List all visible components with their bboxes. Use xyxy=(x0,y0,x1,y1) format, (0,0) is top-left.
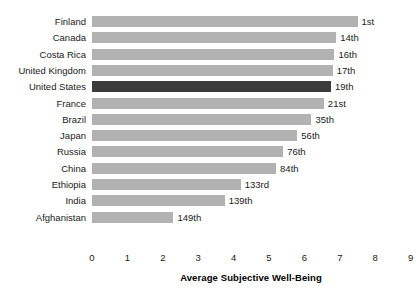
x-axis-title: Average Subjective Well-Being xyxy=(92,272,410,283)
x-tick-5: 5 xyxy=(261,252,277,264)
bar-row: Japan56th xyxy=(0,130,416,146)
rank-label-china: 84th xyxy=(280,163,299,174)
bar-row: Russia76th xyxy=(0,146,416,162)
category-label-ethiopia: Ethiopia xyxy=(0,179,86,190)
category-label-finland: Finland xyxy=(0,16,86,27)
x-tick-9: 9 xyxy=(403,252,416,264)
bar-row: Costa Rica16th xyxy=(0,49,416,65)
bar-finland xyxy=(92,16,358,27)
bar-brazil xyxy=(92,114,311,125)
x-tick-1: 1 xyxy=(119,252,135,264)
category-label-united-kingdom: United Kingdom xyxy=(0,65,86,76)
x-tick-7: 7 xyxy=(332,252,348,264)
bar-row: Afghanistan149th xyxy=(0,212,416,228)
x-tick-2: 2 xyxy=(155,252,171,264)
category-label-afghanistan: Afghanistan xyxy=(0,212,86,223)
rank-label-canada: 14th xyxy=(340,32,359,43)
x-tick-3: 3 xyxy=(190,252,206,264)
rank-label-japan: 56th xyxy=(301,130,320,141)
bar-japan xyxy=(92,130,297,141)
bar-row: United Kingdom17th xyxy=(0,65,416,81)
category-label-india: India xyxy=(0,195,86,206)
bar-india xyxy=(92,195,225,206)
rank-label-costa-rica: 16th xyxy=(338,49,357,60)
bar-row: China84th xyxy=(0,163,416,179)
rank-label-france: 21st xyxy=(328,98,346,109)
rank-label-finland: 1st xyxy=(362,16,375,27)
category-label-russia: Russia xyxy=(0,146,86,157)
bar-row: India139th xyxy=(0,195,416,211)
bar-afghanistan xyxy=(92,212,173,223)
well-being-bar-chart: Finland1stCanada14thCosta Rica16thUnited… xyxy=(0,0,416,302)
rank-label-india: 139th xyxy=(229,195,253,206)
bar-united-kingdom xyxy=(92,65,333,76)
bar-row: Finland1st xyxy=(0,16,416,32)
category-label-japan: Japan xyxy=(0,130,86,141)
bar-costa-rica xyxy=(92,49,334,60)
bar-row: Ethiopia133rd xyxy=(0,179,416,195)
category-label-china: China xyxy=(0,163,86,174)
x-tick-8: 8 xyxy=(367,252,383,264)
bar-canada xyxy=(92,32,336,43)
bar-united-states xyxy=(92,81,331,92)
category-label-brazil: Brazil xyxy=(0,114,86,125)
category-label-costa-rica: Costa Rica xyxy=(0,49,86,60)
x-tick-0: 0 xyxy=(84,252,100,264)
category-label-united-states: United States xyxy=(0,81,86,92)
rank-label-ethiopia: 133rd xyxy=(245,179,269,190)
bar-ethiopia xyxy=(92,179,241,190)
bar-row: Canada14th xyxy=(0,32,416,48)
rank-label-united-states: 19th xyxy=(335,81,354,92)
x-axis: 0123456789 xyxy=(0,252,416,266)
bar-russia xyxy=(92,146,283,157)
bar-row: United States19th xyxy=(0,81,416,97)
category-label-france: France xyxy=(0,98,86,109)
x-tick-4: 4 xyxy=(226,252,242,264)
bar-china xyxy=(92,163,276,174)
rank-label-united-kingdom: 17th xyxy=(337,65,356,76)
rank-label-afghanistan: 149th xyxy=(177,212,201,223)
rank-label-russia: 76th xyxy=(287,146,306,157)
bar-row: France21st xyxy=(0,98,416,114)
rank-label-brazil: 35th xyxy=(315,114,334,125)
x-tick-6: 6 xyxy=(296,252,312,264)
bar-row: Brazil35th xyxy=(0,114,416,130)
category-label-canada: Canada xyxy=(0,32,86,43)
bar-france xyxy=(92,98,324,109)
